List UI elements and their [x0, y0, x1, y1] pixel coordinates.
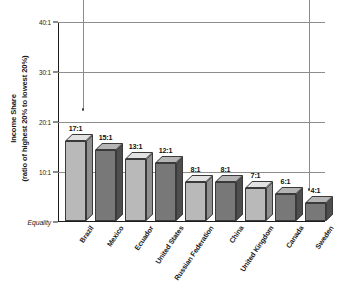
- bar-side-united-kingdom: [266, 181, 273, 221]
- y-tick-30: 30:1: [39, 69, 58, 76]
- y-tick-label-10: 10:1: [39, 169, 51, 176]
- bar-side-brazil: [86, 134, 93, 221]
- y-tick-10: 10:1: [39, 169, 58, 176]
- bar-value-china: 8:1: [215, 165, 236, 174]
- y-tick-label-30: 30:1: [39, 69, 51, 76]
- plot-area: 40:1 30:1 20:1 10:1 Equality: [58, 22, 325, 222]
- bar-value-brazil: 17:1: [65, 124, 86, 133]
- vertical-pen-mark-right: [309, 0, 310, 190]
- bar-side-mexico: [116, 143, 123, 221]
- bar-value-russian-federation: 8:1: [185, 165, 206, 174]
- y-tick-mark-20: [53, 121, 58, 122]
- y-tick-equality: Equality: [28, 219, 58, 226]
- bar-value-ecuador: 13:1: [125, 142, 146, 151]
- y-tick-mark-40: [53, 21, 58, 22]
- x-axis-labels: Brazil Mexico Ecuador United States Russ…: [58, 224, 325, 299]
- bar-side-united-states: [176, 156, 183, 221]
- y-axis-title-line2: (ratio of highest 20% to lowest 20%): [19, 39, 30, 199]
- y-tick-label-equality: Equality: [28, 219, 51, 226]
- vertical-pen-mark-left: [83, 0, 84, 110]
- y-axis-title-line1: Income Share: [9, 94, 18, 143]
- y-tick-mark-equality: [53, 221, 58, 222]
- bar-value-united-states: 12:1: [155, 146, 176, 155]
- bar-series: 17:1 15:1 13:1: [59, 22, 325, 221]
- y-axis-title: Income Share (ratio of highest 20% to lo…: [9, 39, 30, 199]
- bar-side-russian-federation: [206, 175, 213, 221]
- y-tick-mark-10: [53, 171, 58, 172]
- y-tick-40: 40:1: [39, 19, 58, 26]
- y-tick-label-20: 20:1: [39, 119, 51, 126]
- y-tick-20: 20:1: [39, 119, 58, 126]
- bar-side-ecuador: [146, 152, 153, 221]
- income-share-bar-chart: Income Share (ratio of highest 20% to lo…: [0, 0, 337, 299]
- bar-value-mexico: 15:1: [95, 133, 116, 142]
- y-tick-label-40: 40:1: [39, 19, 51, 26]
- bar-front-brazil: [65, 141, 86, 221]
- bar-value-canada: 6:1: [275, 177, 296, 186]
- y-tick-mark-30: [53, 71, 58, 72]
